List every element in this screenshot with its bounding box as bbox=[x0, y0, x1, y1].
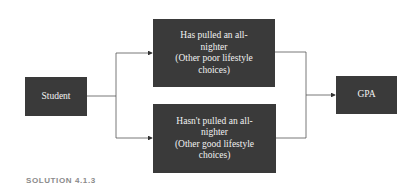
all-nighter-label: Has pulled an all- nighter (Other poor l… bbox=[175, 30, 253, 76]
gpa-node: GPA bbox=[336, 76, 397, 114]
all-nighter-node: Has pulled an all- nighter (Other poor l… bbox=[153, 19, 275, 87]
student-node: Student bbox=[25, 77, 87, 116]
no-all-nighter-node: Hasn't pulled an all- nighter (Other goo… bbox=[153, 104, 276, 173]
gpa-label: GPA bbox=[357, 89, 375, 101]
student-label: Student bbox=[41, 91, 70, 103]
figure-caption: SOLUTION 4.1.3 bbox=[26, 176, 96, 185]
no-all-nighter-label: Hasn't pulled an all- nighter (Other goo… bbox=[175, 116, 254, 162]
